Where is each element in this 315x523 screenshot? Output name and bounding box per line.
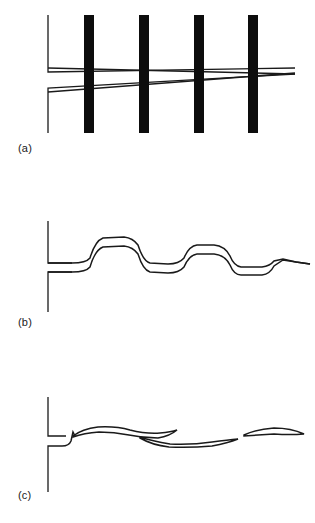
panel-c-axis-lower <box>48 446 62 492</box>
panel-a-label: (a) <box>18 142 32 154</box>
panel-a-plot <box>0 0 315 175</box>
panel-c-loop-1 <box>73 427 177 438</box>
panel-b-label: (b) <box>18 316 32 328</box>
panel-c: (c) <box>0 350 315 523</box>
panel-b-plot <box>0 175 315 350</box>
panel-b-trace-upper <box>48 237 310 267</box>
panel-a-bar-1 <box>84 15 94 133</box>
panel-c-spike <box>62 432 75 446</box>
panel-b-axis-lower <box>48 272 72 312</box>
panel-c-loop-3 <box>244 428 304 436</box>
panel-a-bar-3 <box>194 15 204 133</box>
panel-a: (a) <box>0 0 315 175</box>
figure-container: (a) (b) (c) <box>0 0 315 523</box>
panel-a-bar-4 <box>248 15 258 133</box>
panel-c-label: (c) <box>18 489 31 501</box>
panel-b: (b) <box>0 175 315 350</box>
panel-c-axis-upper <box>48 397 66 436</box>
panel-c-plot <box>0 350 315 523</box>
panel-a-bar-2 <box>139 15 149 133</box>
panel-b-axis-upper <box>48 221 72 263</box>
